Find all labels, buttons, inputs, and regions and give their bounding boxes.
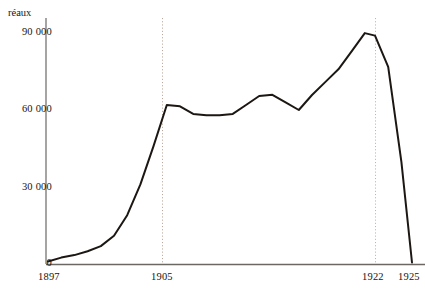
y-axis-tick-60000: 60 000: [22, 104, 52, 115]
chart-plot-area: [0, 0, 425, 289]
line-chart: réaux 90 000 60 000 30 000 0 1897 1905 1…: [0, 0, 425, 289]
reference-lines-group: [163, 18, 376, 264]
y-axis-unit-label: réaux: [8, 8, 31, 19]
data-series-reaux: [48, 33, 412, 262]
x-axis-tick-1905: 1905: [151, 272, 173, 283]
x-axis-tick-1922: 1922: [362, 272, 384, 283]
y-axis-tick-0: 0: [47, 258, 52, 269]
axes-group: [46, 18, 425, 265]
y-axis-tick-30000: 30 000: [22, 182, 52, 193]
y-axis-tick-90000: 90 000: [22, 27, 52, 38]
series-line-reaux: [48, 33, 412, 262]
x-axis-tick-1925: 1925: [398, 272, 420, 283]
x-axis-tick-1897: 1897: [38, 272, 60, 283]
